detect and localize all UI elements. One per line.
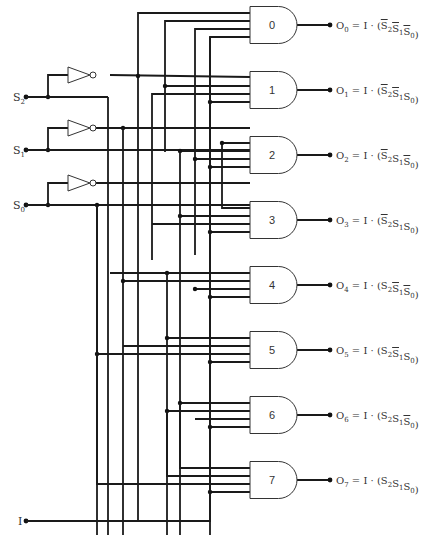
gate-number: 5	[269, 344, 275, 356]
junction-dot	[193, 287, 197, 291]
wire	[97, 205, 250, 484]
input-label-s1: S1	[13, 144, 25, 159]
outputs: O0 = I · (S2S1S0)O1 = I · (S2S1S0)O2 = I…	[336, 20, 419, 495]
inversion-bubble-icon	[90, 72, 96, 78]
output-equation-o7: O7 = I · (S2S1S0)	[336, 475, 419, 495]
output-equation-o2: O2 = I · (S2S1S0)	[336, 150, 419, 170]
output-equation-o0: O0 = I · (S2S1S0)	[336, 20, 419, 40]
wire	[48, 128, 68, 150]
wire	[152, 94, 250, 260]
junction-dot	[136, 74, 140, 78]
wire	[48, 75, 68, 97]
input-label-s0: S0	[13, 199, 25, 214]
inversion-bubble-icon	[90, 125, 96, 131]
gate-number: 1	[269, 84, 275, 96]
inversion-bubble-icon	[90, 180, 96, 186]
wire	[48, 183, 68, 205]
junction-dot	[328, 88, 333, 93]
inverter-s0	[68, 175, 90, 191]
junction-dot	[328, 218, 333, 223]
gate-number: 0	[269, 19, 275, 31]
output-equation-o5: O5 = I · (S2S1S0)	[336, 345, 419, 365]
inverters	[68, 67, 96, 191]
junction-dot	[328, 348, 333, 353]
output-equation-o6: O6 = I · (S2S1S0)	[336, 410, 419, 430]
output-equation-o3: O3 = I · (S2S1S0)	[336, 215, 419, 235]
gate-number: 2	[269, 149, 275, 161]
gate-number: 4	[269, 279, 275, 291]
gate-number: 7	[269, 474, 275, 486]
output-equation-o1: O1 = I · (S2S1S0)	[336, 85, 419, 105]
demultiplexer-diagram: 01234567 S2S1S0I O0 = I · (S2S1S0)O1 = I…	[0, 0, 422, 535]
junction-dot	[328, 153, 333, 158]
junction-dot	[220, 141, 224, 145]
wire	[110, 75, 250, 77]
junction-dot	[165, 336, 169, 340]
junction-dot	[328, 23, 333, 28]
junction-dot	[163, 84, 167, 88]
input-label-s2: S2	[13, 91, 25, 106]
inputs: S2S1S0I	[13, 91, 25, 528]
gate-number: 3	[269, 214, 275, 226]
gate-number: 6	[269, 409, 275, 421]
wire	[138, 13, 250, 521]
wire	[210, 37, 250, 535]
wire	[222, 143, 250, 208]
junction-dot	[328, 413, 333, 418]
junction-dot	[328, 478, 333, 483]
wire	[180, 403, 250, 468]
inverter-s1	[68, 120, 90, 136]
output-equation-o4: O4 = I · (S2S1S0)	[336, 280, 419, 300]
and-gates: 01234567	[250, 7, 297, 499]
input-label-i: I	[18, 515, 22, 528]
junction-dot	[328, 283, 333, 288]
inverter-s2	[68, 67, 90, 83]
junction-dot	[121, 279, 125, 283]
wire	[26, 37, 210, 521]
junction-dot	[193, 157, 197, 161]
